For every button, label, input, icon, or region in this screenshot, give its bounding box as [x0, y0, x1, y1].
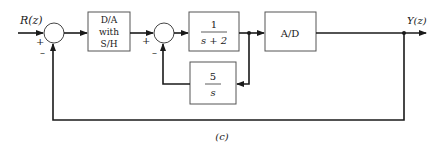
sum1-plus-sign: + — [36, 36, 44, 47]
da-line-1: D/A — [101, 15, 118, 25]
plant-numerator: 1 — [211, 19, 217, 30]
summing-junction-2 — [154, 23, 174, 43]
sum2-minus-sign: – — [152, 47, 157, 58]
inner-feedback-return — [163, 44, 190, 84]
block-diagram: R(z) + – D/A with S/H + – 1 s + 2 A/D Y(… — [0, 0, 443, 146]
feedback-numerator: 5 — [210, 71, 216, 82]
sum1-minus-sign: – — [40, 47, 45, 58]
sum2-plus-sign: + — [142, 35, 150, 46]
plant-denominator: s + 2 — [201, 35, 227, 46]
feedback-denominator: s — [210, 87, 215, 98]
figure-caption: (c) — [215, 131, 229, 142]
da-line-3: S/H — [100, 39, 117, 49]
summing-junction-1 — [44, 23, 64, 43]
da-line-2: with — [99, 27, 119, 37]
output-label: Y(z) — [407, 15, 427, 26]
ad-label: A/D — [280, 28, 300, 39]
input-label: R(z) — [19, 14, 43, 27]
